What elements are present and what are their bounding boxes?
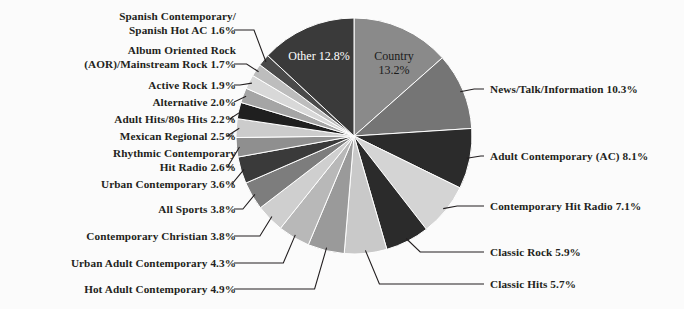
slice-label-album-oriented-rock: Album Oriented Rock (AOR)/Mainstream Roc… xyxy=(21,44,236,71)
slice-label-other-inside: Other 12.8% xyxy=(288,49,350,63)
slice-label-adult-hits: Adult Hits/80s Hits 2.2% xyxy=(21,113,236,127)
slice-label-spanish-contemporary: Spanish Contemporary/ Spanish Hot AC 1.6… xyxy=(21,10,236,37)
slice-label-mexican-regional: Mexican Regional 2.5% xyxy=(21,130,236,144)
slice-label-contemporary-hit-radio: Contemporary Hit Radio 7.1% xyxy=(490,200,684,214)
slice-label-country-inside: Country 13.2% xyxy=(360,49,428,77)
slice-label-contemporary-christian: Contemporary Christian 3.8% xyxy=(21,230,236,244)
slice-label-classic-hits: Classic Hits 5.7% xyxy=(490,278,684,292)
slice-label-hot-adult-contemporary: Hot Adult Contemporary 4.9% xyxy=(21,283,236,297)
slice-label-urban-adult-contemporary: Urban Adult Contemporary 4.3% xyxy=(18,257,236,271)
slice-label-rhythmic-chr: Rhythmic Contemporary Hit Radio 2.6% xyxy=(21,147,236,174)
slice-label-alternative: Alternative 2.0% xyxy=(21,96,236,110)
slice-label-active-rock: Active Rock 1.9% xyxy=(21,79,236,93)
pie-chart-figure: Spanish Contemporary/ Spanish Hot AC 1.6… xyxy=(0,0,684,309)
pie-slices-group xyxy=(236,18,472,254)
slice-label-urban-contemporary: Urban Contemporary 3.6% xyxy=(21,178,236,192)
slice-label-news-talk: News/Talk/Information 10.3% xyxy=(490,83,684,97)
slice-label-adult-contemporary: Adult Contemporary (AC) 8.1% xyxy=(490,150,684,164)
slice-label-classic-rock: Classic Rock 5.9% xyxy=(490,246,684,260)
slice-label-all-sports: All Sports 3.8% xyxy=(21,203,236,217)
